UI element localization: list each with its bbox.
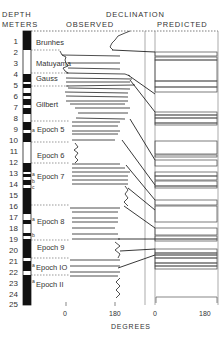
sub-a: a: [32, 262, 35, 268]
sub-b: b: [32, 232, 35, 238]
sub-c: c: [32, 184, 35, 190]
observed-tick-180: 180: [109, 310, 121, 317]
polarity-column: [23, 31, 31, 305]
sub-a: a: [32, 127, 35, 133]
epoch-label-10: Epoch IO: [36, 263, 67, 272]
sub-a: a: [32, 216, 35, 222]
epoch-label-6: Epoch 6: [37, 151, 65, 160]
epoch-label-8: Epoch 8: [37, 217, 65, 226]
sub-a: a: [32, 278, 35, 284]
epoch-label-7: Epoch 7: [37, 172, 65, 181]
x-axis-label: DEGREES: [111, 323, 151, 330]
epoch-label-brunhes: Brunhes: [36, 38, 64, 47]
epoch-label-9: Epoch 9: [37, 243, 65, 252]
epoch-label-gilbert: Gilbert: [36, 100, 58, 109]
predicted-tick-180: 180: [199, 310, 211, 317]
epoch-label-matuyama: Matuyama: [36, 59, 71, 68]
observed-tick-0: 0: [63, 310, 67, 317]
epoch-label-gauss: Gauss: [36, 74, 58, 83]
sub-a: a: [32, 171, 35, 177]
predicted-tick-0: 0: [153, 310, 157, 317]
epoch-label-11: Epoch II: [36, 280, 64, 289]
epoch-label-5: Epoch 5: [37, 125, 65, 134]
